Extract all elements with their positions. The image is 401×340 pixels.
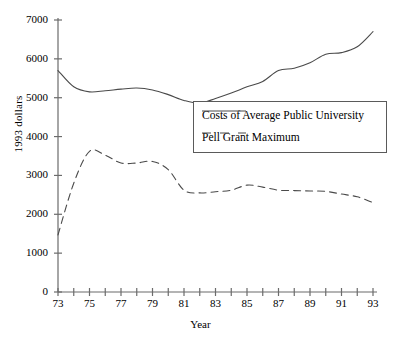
legend-swatch-dashed-line-icon	[202, 128, 246, 138]
legend-swatch-solid-line-icon	[202, 106, 246, 116]
chart-container: 1993 dollars Year 0100020003000400050006…	[0, 0, 401, 340]
series-line-pell-grant-maximum	[58, 150, 373, 235]
legend-item-pell: Pell Grant Maximum	[202, 128, 300, 148]
legend: Costs of Average Public University Pell …	[193, 101, 387, 153]
legend-item-costs: Costs of Average Public University	[202, 106, 364, 126]
plot-area	[0, 0, 401, 340]
series-line-costs-of-average-public-university	[58, 32, 373, 104]
